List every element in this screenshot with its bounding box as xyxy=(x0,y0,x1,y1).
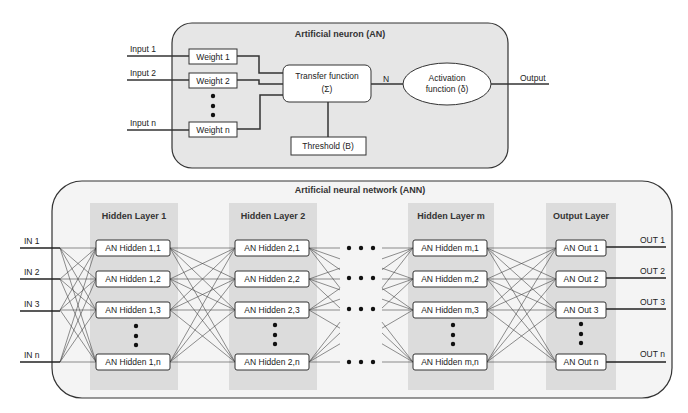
node-box: AN Hidden m,3 xyxy=(413,302,487,318)
svg-text:Weight n: Weight n xyxy=(196,125,230,135)
svg-text:AN Hidden m,1: AN Hidden m,1 xyxy=(421,243,479,253)
node-box: AN Hidden 2,3 xyxy=(235,302,309,318)
artificial-neuron-panel: Artificial neuron (AN) Input 1 Input 2 I… xyxy=(127,23,549,168)
node-box: AN Out n xyxy=(556,354,606,370)
transfer-function-box: Transfer function (Σ) xyxy=(283,65,371,102)
node-box: AN Hidden 2,1 xyxy=(235,240,309,256)
out-2-label: OUT 2 xyxy=(640,266,665,276)
node-box: AN Hidden 2,2 xyxy=(235,271,309,287)
svg-text:Transfer function: Transfer function xyxy=(295,71,359,81)
node-box: AN Out 3 xyxy=(556,302,606,318)
in-n-label: IN n xyxy=(24,350,40,360)
out-n-label: OUT n xyxy=(640,349,665,359)
svg-text:Activation: Activation xyxy=(429,73,466,83)
input-1-label: Input 1 xyxy=(130,44,156,54)
out-3-label: OUT 3 xyxy=(640,297,665,307)
svg-text:(Σ): (Σ) xyxy=(322,84,333,94)
n-label: N xyxy=(383,74,389,84)
node-box: AN Hidden 1,1 xyxy=(96,240,170,256)
neuron-title: Artificial neuron (AN) xyxy=(295,29,386,39)
node-box: AN Out 2 xyxy=(556,271,606,287)
weight-1-box: Weight 1 xyxy=(189,49,237,64)
vertical-ellipsis-icon xyxy=(211,94,215,117)
svg-text:AN Hidden 2,3: AN Hidden 2,3 xyxy=(244,305,300,315)
output-label: Output xyxy=(520,73,546,83)
svg-text:AN Hidden 2,n: AN Hidden 2,n xyxy=(244,357,300,367)
svg-text:AN Hidden 1,n: AN Hidden 1,n xyxy=(105,357,161,367)
input-n-label: Input n xyxy=(130,118,156,128)
svg-text:AN Hidden 1,3: AN Hidden 1,3 xyxy=(105,305,161,315)
hidden-layer-m-title: Hidden Layer m xyxy=(417,211,485,221)
activation-function-ellipse: Activation function (δ) xyxy=(403,63,491,105)
svg-text:Weight 2: Weight 2 xyxy=(196,76,230,86)
weight-2-box: Weight 2 xyxy=(189,73,237,88)
ann-title: Artificial neural network (ANN) xyxy=(295,185,426,195)
svg-text:Threshold (B): Threshold (B) xyxy=(302,141,354,151)
svg-text:AN Out 3: AN Out 3 xyxy=(564,305,599,315)
svg-text:AN Out n: AN Out n xyxy=(564,357,599,367)
hidden-layer-1-title: Hidden Layer 1 xyxy=(102,211,167,221)
svg-text:AN Hidden m,2: AN Hidden m,2 xyxy=(421,274,479,284)
weight-n-box: Weight n xyxy=(189,122,237,137)
svg-text:AN Hidden 2,2: AN Hidden 2,2 xyxy=(244,274,300,284)
svg-text:function (δ): function (δ) xyxy=(426,84,469,94)
node-box: AN Hidden m,n xyxy=(413,354,487,370)
diagram-canvas: Artificial neuron (AN) Input 1 Input 2 I… xyxy=(0,0,688,413)
svg-text:AN Hidden 2,1: AN Hidden 2,1 xyxy=(244,243,300,253)
svg-text:AN Hidden m,3: AN Hidden m,3 xyxy=(421,305,479,315)
threshold-box: Threshold (B) xyxy=(291,137,366,155)
ann-panel: Artificial neural network (ANN) Hidden L… xyxy=(20,181,672,398)
node-box: AN Hidden m,2 xyxy=(413,271,487,287)
node-box: AN Hidden 1,3 xyxy=(96,302,170,318)
in-1-label: IN 1 xyxy=(24,236,40,246)
svg-text:AN Out 2: AN Out 2 xyxy=(564,274,599,284)
node-box: AN Hidden 2,n xyxy=(235,354,309,370)
node-box: AN Hidden 1,n xyxy=(96,354,170,370)
node-box: AN Hidden m,1 xyxy=(413,240,487,256)
output-layer-title: Output Layer xyxy=(553,211,610,221)
svg-text:AN Hidden m,n: AN Hidden m,n xyxy=(421,357,479,367)
input-2-label: Input 2 xyxy=(130,68,156,78)
out-1-label: OUT 1 xyxy=(640,235,665,245)
svg-text:AN Out 1: AN Out 1 xyxy=(564,243,599,253)
svg-text:AN Hidden 1,1: AN Hidden 1,1 xyxy=(105,243,161,253)
svg-text:Weight 1: Weight 1 xyxy=(196,52,230,62)
in-3-label: IN 3 xyxy=(24,299,40,309)
node-box: AN Hidden 1,2 xyxy=(96,271,170,287)
svg-text:AN Hidden 1,2: AN Hidden 1,2 xyxy=(105,274,161,284)
in-2-label: IN 2 xyxy=(24,267,40,277)
node-box: AN Out 1 xyxy=(556,240,606,256)
hidden-layer-2-title: Hidden Layer 2 xyxy=(241,211,306,221)
